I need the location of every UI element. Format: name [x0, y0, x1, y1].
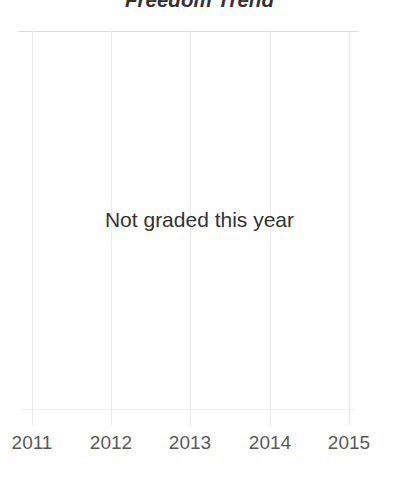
x-tick-label-2011: 2011 — [0, 432, 72, 454]
chart-title: Freedom Trend — [0, 0, 399, 13]
x-tick-label-2015: 2015 — [309, 432, 389, 454]
chart-title-clip: Freedom Trend — [0, 0, 399, 13]
no-data-annotation: Not graded this year — [0, 208, 399, 232]
freedom-trend-chart: Freedom Trend Not graded this year 2011 … — [0, 0, 399, 480]
x-tick-label-2014: 2014 — [230, 432, 310, 454]
axis-bottom-rule — [20, 409, 356, 410]
x-tick-label-2013: 2013 — [150, 432, 230, 454]
x-tick-label-2012: 2012 — [71, 432, 151, 454]
